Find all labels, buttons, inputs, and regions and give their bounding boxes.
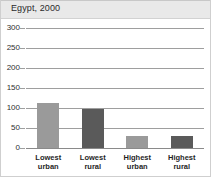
y-axis-tick-label: 100 <box>7 103 20 112</box>
x-axis-tick-label: Highest urban <box>115 153 160 171</box>
y-axis-tick-labels: 050100150200250300 <box>0 28 20 148</box>
bar <box>126 136 148 148</box>
y-axis-tick-label: 50 <box>11 123 20 132</box>
chart-title: Egypt, 2000 <box>11 3 60 13</box>
y-axis-tick-label: 150 <box>7 83 20 92</box>
x-axis-tick-label: Lowest urban <box>26 153 71 171</box>
y-axis-tick-mark <box>20 28 25 29</box>
y-axis-tick-mark <box>20 148 25 149</box>
x-axis-baseline <box>26 148 204 149</box>
y-axis-tick-mark <box>20 108 25 109</box>
bar <box>171 136 193 148</box>
y-axis-tick-label: 300 <box>7 23 20 32</box>
figure-border-right <box>210 0 211 177</box>
y-axis-tick-mark <box>20 88 25 89</box>
gridline <box>26 48 204 49</box>
figure-border-bottom <box>0 176 211 177</box>
y-axis-tick-label: 200 <box>7 63 20 72</box>
x-axis-tick-label: Lowest rural <box>71 153 116 171</box>
bar <box>37 103 59 148</box>
y-axis-tick-mark <box>20 48 25 49</box>
y-axis-tick-label: 250 <box>7 43 20 52</box>
gridline <box>26 88 204 89</box>
gridline <box>26 68 204 69</box>
y-axis-tick-mark <box>20 68 25 69</box>
gridline <box>26 28 204 29</box>
chart-figure: Egypt, 2000 050100150200250300 Lowest ur… <box>0 0 211 177</box>
x-axis-tick-label: Highest rural <box>160 153 205 171</box>
y-axis-tick-mark <box>20 128 25 129</box>
plot-area <box>26 28 204 148</box>
bar <box>82 109 104 148</box>
